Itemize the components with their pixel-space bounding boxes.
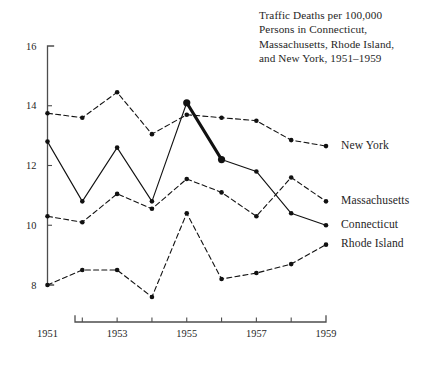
- x-axis: 19511953195519571959: [37, 316, 336, 339]
- x-tick-label: 1953: [107, 328, 128, 339]
- data-point-new-york-1955: [184, 112, 189, 117]
- data-point-new-york-1957: [254, 118, 259, 123]
- data-point-rhode-island-1957: [254, 271, 259, 276]
- chart-title-line-4: and New York, 1951–1959: [259, 51, 441, 65]
- x-tick-label: 1959: [316, 328, 337, 339]
- x-axis-line: [75, 316, 326, 322]
- chart-title-line-2: Persons in Connecticut,: [259, 22, 441, 36]
- chart-title: Traffic Deaths per 100,000 Persons in Co…: [259, 8, 441, 66]
- chart-title-line-1: Traffic Deaths per 100,000: [259, 8, 441, 22]
- series-label-new-york: New York: [341, 139, 389, 152]
- series-label-rhode-island: Rhode Island: [341, 237, 404, 250]
- series-label-massachusetts: Massachusetts: [341, 194, 409, 207]
- data-point-connecticut-1952: [80, 199, 85, 204]
- data-point-new-york-1956: [219, 115, 224, 120]
- x-tick-group: [82, 318, 291, 323]
- data-point-new-york-1959: [324, 144, 329, 149]
- data-point-new-york-1958: [289, 138, 294, 143]
- data-point-connecticut-1957: [254, 169, 259, 174]
- data-point-new-york-1953: [115, 90, 120, 95]
- data-point-connecticut-1954: [150, 199, 155, 204]
- series-label-connecticut: Connecticut: [341, 218, 398, 231]
- data-point-connecticut-1959: [324, 223, 329, 228]
- data-point-connecticut-1956: [218, 156, 225, 163]
- data-point-massachusetts-1956: [219, 190, 224, 195]
- data-point-rhode-island-1953: [115, 268, 120, 273]
- y-tick-label-group: 810121416: [26, 41, 37, 291]
- traffic-deaths-figure: 810121416 19511953195519571959 Traffic D…: [0, 0, 443, 370]
- y-axis: 810121416: [26, 41, 53, 291]
- data-point-rhode-island-1959: [324, 242, 329, 247]
- x-tick-label: 1955: [176, 328, 197, 339]
- series-line-rhode-island: [48, 213, 327, 297]
- data-point-massachusetts-1957: [254, 214, 259, 219]
- data-point-rhode-island-1956: [219, 277, 224, 282]
- data-point-connecticut-1958: [289, 211, 294, 216]
- data-point-new-york-1952: [80, 115, 85, 120]
- y-tick-group: [48, 106, 53, 226]
- data-point-rhode-island-1954: [150, 295, 155, 300]
- chart-title-line-3: Massachusetts, Rhode Island,: [259, 37, 441, 51]
- y-tick-label: 16: [26, 41, 36, 52]
- data-point-connecticut-1955: [183, 99, 190, 106]
- x-tick-label: 1957: [246, 328, 267, 339]
- series-line-connecticut: [222, 160, 326, 226]
- y-tick-label: 12: [26, 160, 36, 171]
- data-point-massachusetts-1958: [289, 175, 294, 180]
- x-tick-label-group: 19511953195519571959: [37, 328, 336, 339]
- y-tick-label: 10: [26, 220, 36, 231]
- data-point-massachusetts-1953: [115, 192, 120, 197]
- data-point-rhode-island-1955: [184, 211, 189, 216]
- data-point-rhode-island-1951: [45, 283, 50, 288]
- data-point-massachusetts-1952: [80, 220, 85, 225]
- data-point-massachusetts-1951: [45, 214, 50, 219]
- series-line-connecticut: [48, 103, 187, 202]
- y-tick-label: 8: [31, 280, 36, 291]
- series-highlight-segment-connecticut: [187, 103, 222, 160]
- data-point-massachusetts-1959: [324, 199, 329, 204]
- x-tick-label: 1951: [37, 328, 58, 339]
- data-point-connecticut-1951: [45, 139, 50, 144]
- data-point-new-york-1954: [150, 132, 155, 137]
- y-tick-label: 14: [26, 100, 37, 111]
- data-point-massachusetts-1955: [184, 177, 189, 182]
- data-point-new-york-1951: [45, 111, 50, 116]
- data-point-rhode-island-1958: [289, 262, 294, 267]
- data-point-connecticut-1953: [115, 145, 120, 150]
- data-point-rhode-island-1952: [80, 268, 85, 273]
- series-layer: [45, 90, 328, 299]
- data-point-massachusetts-1954: [150, 207, 155, 212]
